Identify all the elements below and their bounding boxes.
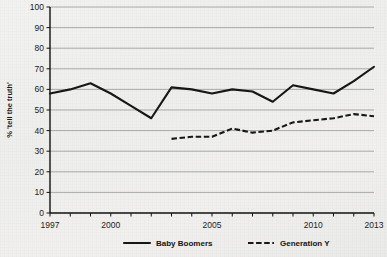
y-tick-label: 10 — [35, 187, 45, 197]
y-axis-label: % 'tell the truth' — [5, 82, 14, 138]
x-tick-label: 1997 — [41, 220, 60, 230]
x-tick-label: 2005 — [203, 220, 222, 230]
y-tick-label: 30 — [35, 146, 45, 156]
gridlines — [50, 7, 374, 192]
y-tick-label: 0 — [39, 208, 44, 218]
y-tick-label: 70 — [35, 64, 45, 74]
data-series — [50, 67, 374, 139]
y-tick-label: 50 — [35, 105, 45, 115]
y-axis-title: % 'tell the truth' — [5, 82, 14, 138]
y-tick-label: 40 — [35, 126, 45, 136]
y-axis: 0102030405060708090100 — [30, 2, 50, 218]
legend-label-generation-y: Generation Y — [280, 239, 330, 248]
y-tick-label: 20 — [35, 167, 45, 177]
series-line-generation-y — [172, 114, 375, 139]
y-tick-label: 80 — [35, 43, 45, 53]
chart-legend: Baby BoomersGeneration Y — [124, 239, 330, 248]
y-tick-label: 90 — [35, 23, 45, 33]
x-axis: 19972000200520102013 — [41, 213, 384, 230]
x-tick-label: 2000 — [101, 220, 120, 230]
x-tick-label: 2010 — [304, 220, 323, 230]
y-tick-label: 100 — [30, 2, 44, 12]
legend-label-baby-boomers: Baby Boomers — [156, 239, 213, 248]
series-line-baby-boomers — [50, 67, 374, 119]
y-tick-label: 60 — [35, 84, 45, 94]
line-chart: 0102030405060708090100 19972000200520102… — [0, 0, 387, 257]
chart-container: 0102030405060708090100 19972000200520102… — [0, 0, 387, 257]
x-tick-label: 2013 — [365, 220, 384, 230]
